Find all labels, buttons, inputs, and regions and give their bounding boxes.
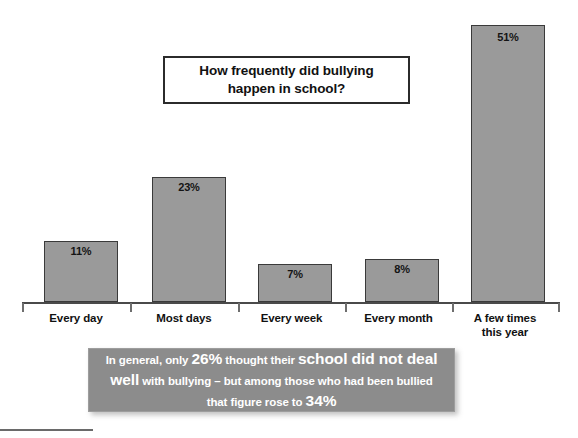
bar-most-days: [152, 177, 226, 302]
category-label-every-week: Every week: [238, 311, 345, 325]
caption-emphasis-well: well: [110, 371, 139, 388]
plot-area: 11% 23% 7% 8% 51% Every day Most days Ev…: [0, 0, 578, 310]
category-label-every-day: Every day: [22, 311, 130, 325]
caption-stat-26: 26%: [192, 350, 223, 367]
caption-text-1a: In general, only: [106, 354, 192, 366]
bar-value-label-most-days: 23%: [152, 181, 226, 193]
caption-line-3: that figure rose to 34%: [207, 391, 337, 412]
bar-value-label-every-month: 8%: [365, 263, 439, 275]
caption-text-1c: thought their: [222, 354, 298, 366]
bar-value-label-a-few-times-this-year: 51%: [471, 31, 545, 43]
caption-line-1: In general, only 26% thought their schoo…: [106, 349, 438, 370]
caption-line-2: well with bullying – but among those who…: [110, 370, 433, 391]
category-label-most-days: Most days: [130, 311, 238, 325]
chart-title-line1: How frequently did bullying: [199, 62, 373, 80]
category-label-line2: this year: [482, 326, 528, 338]
category-label-line1: A few times: [474, 312, 536, 324]
category-label-every-month: Every month: [345, 311, 452, 325]
bottom-divider: [0, 429, 93, 431]
axis-tick: [558, 303, 560, 312]
chart-title-box: How frequently did bullying happen in sc…: [163, 56, 410, 104]
bar-a-few-times-this-year: [471, 25, 545, 302]
bar-value-label-every-week: 7%: [258, 268, 332, 280]
bar-value-label-every-day: 11%: [44, 245, 118, 257]
caption-box: In general, only 26% thought their schoo…: [88, 348, 455, 412]
chart-title-line2: happen in school?: [228, 80, 346, 98]
caption-text-2b: with bullying – but among those who had …: [139, 375, 433, 387]
chart-page: 11% 23% 7% 8% 51% Every day Most days Ev…: [0, 0, 578, 438]
caption-text-3a: that figure rose to: [207, 396, 306, 408]
category-label-a-few-times-this-year: A few times this year: [452, 311, 558, 339]
caption-stat-34: 34%: [306, 392, 337, 409]
caption-emphasis-school: school did not deal: [298, 350, 437, 367]
x-axis-line: [22, 302, 560, 304]
